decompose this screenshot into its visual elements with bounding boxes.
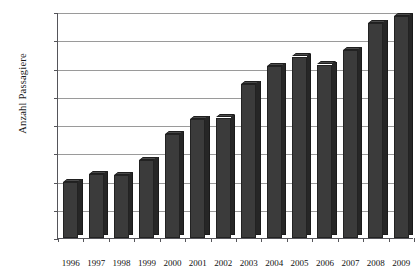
bar-front-face [63,182,78,238]
x-tick-mark [414,238,415,242]
x-tick-mark [58,238,59,242]
x-tick-mark [185,238,186,242]
bar-side-face [307,54,312,235]
bar-front-face [165,134,180,238]
bar-side-face [180,131,185,235]
x-tick-mark [236,238,237,242]
x-tick-mark [363,238,364,242]
plot-area: 0500001000001500002000002500003000003500… [57,13,413,239]
y-axis-title: Anzahl Passagiere [17,24,28,164]
bar-front-face [139,160,154,238]
x-tick-mark [83,238,84,242]
bar-side-face [332,62,337,235]
bar-front-face [216,118,231,238]
bar-front-face [267,66,282,238]
bar-side-face [282,63,287,235]
bar-front-face [89,174,104,238]
x-tick-mark [134,238,135,242]
bar-side-face [154,157,159,235]
bar-front-face [114,175,129,238]
bar-side-face [383,20,388,235]
bar-side-face [409,13,414,235]
x-tick-mark [389,238,390,242]
x-tick-mark [211,238,212,242]
x-tick-label: 2009 [381,258,419,268]
bar-side-face [104,171,109,235]
bar-front-face [343,50,358,238]
bar-front-face [190,119,205,238]
bar-side-face [358,47,363,235]
x-tick-mark [312,238,313,242]
x-tick-mark [261,238,262,242]
bar-front-face [394,16,409,238]
bar-side-face [205,116,210,235]
bar-front-face [292,57,307,238]
bar-side-face [231,115,236,235]
bar-side-face [129,172,134,235]
x-tick-mark [109,238,110,242]
bar-side-face [256,81,261,235]
bar-series [58,13,413,238]
bar-side-face [78,179,83,235]
bar-chart: Anzahl Passagiere 0500001000001500002000… [0,0,419,274]
bar-front-face [368,23,383,238]
x-tick-mark [160,238,161,242]
bar-front-face [241,84,256,238]
bar-top-face [394,13,413,16]
bar-top-face [343,47,362,50]
x-tick-mark [287,238,288,242]
x-tick-mark [338,238,339,242]
bar-front-face [317,65,332,238]
